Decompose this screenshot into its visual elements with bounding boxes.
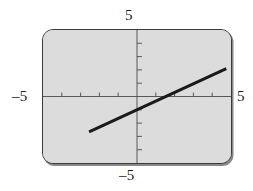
curve-group <box>89 69 226 132</box>
plot-area <box>43 30 231 163</box>
axes-group <box>43 30 231 163</box>
calculator-graph-figure: 5 –5 5 –5 <box>0 0 253 191</box>
calculator-screen <box>42 29 232 164</box>
x-axis-min-label: –5 <box>12 89 28 104</box>
y-axis-min-label: –5 <box>119 168 135 183</box>
data-line <box>89 69 226 132</box>
y-axis-max-label: 5 <box>125 8 133 23</box>
x-axis-max-label: 5 <box>237 89 245 104</box>
